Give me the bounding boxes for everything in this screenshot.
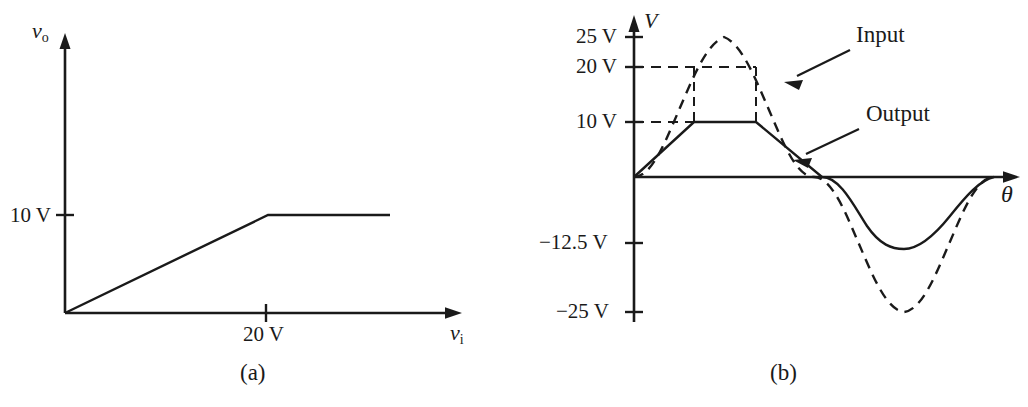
figure-container: 10 V 20 V vo vi (a)	[0, 0, 1028, 407]
panel-b-caption: (b)	[770, 361, 797, 384]
panel-b-y-axis-label: V	[644, 10, 657, 32]
panel-a-transfer-characteristic: 10 V 20 V vo vi (a)	[0, 0, 514, 407]
panel-a-y-tick-label-10v: 10 V	[10, 205, 51, 226]
panel-b-annotation-input: Input	[856, 23, 905, 46]
panel-a-x-axis-label-subscript: i	[460, 332, 464, 347]
panel-b-y-tick-label-10v: 10 V	[576, 111, 617, 132]
panel-a-x-axis-label: vi	[450, 322, 464, 347]
panel-a-y-axis-label-base: v	[32, 18, 42, 43]
panel-a-x-axis	[65, 307, 462, 319]
panel-b-waveforms: 25 V 20 V 10 V −12.5 V −25 V V θ Input O…	[514, 0, 1028, 407]
panel-a-x-tick-label-20v: 20 V	[243, 324, 284, 345]
panel-b-annotation-output: Output	[866, 102, 930, 125]
panel-a-caption: (a)	[240, 361, 266, 384]
panel-a-y-axis	[60, 33, 71, 313]
input-leader-line	[797, 50, 850, 76]
panel-b-y-tick-label-neg125v: −12.5 V	[539, 232, 608, 253]
output-leader-line	[806, 129, 859, 154]
panel-b-y-axis	[629, 15, 640, 322]
panel-b-y-tick-label-20v: 20 V	[576, 56, 617, 77]
panel-b-output-waveform	[634, 122, 994, 249]
input-leader-arrowhead	[784, 80, 803, 90]
panel-a-y-axis-label-subscript: o	[42, 30, 49, 45]
panel-b-annotation-leaders	[784, 50, 859, 168]
panel-b-input-waveform	[634, 37, 994, 312]
panel-b-y-tick-label-neg25v: −25 V	[556, 301, 609, 322]
panel-b-y-tick-label-25v: 25 V	[576, 26, 617, 47]
panel-a-x-axis-label-base: v	[450, 320, 460, 345]
panel-b-x-axis-label: θ	[1001, 182, 1013, 206]
panel-a-y-axis-label: vo	[32, 20, 49, 45]
panel-a-transfer-curve	[65, 215, 390, 313]
